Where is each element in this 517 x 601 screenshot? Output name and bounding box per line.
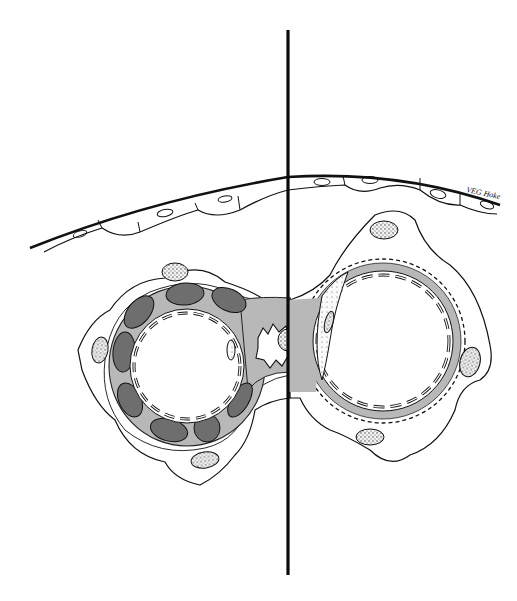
left-vessel-lumen [130, 309, 244, 423]
pericyte-nucleus [356, 429, 384, 445]
surface-epithelium [30, 176, 500, 252]
left-vessel-endothelial-nucleus [227, 340, 235, 360]
left-vessel [78, 263, 290, 485]
histology-figure: VEG Hoke [0, 0, 517, 601]
pericyte-nucleus [370, 221, 398, 239]
right-vessel [288, 211, 491, 461]
figure-canvas: VEG Hoke [0, 0, 517, 601]
pericyte-nucleus [162, 263, 188, 281]
